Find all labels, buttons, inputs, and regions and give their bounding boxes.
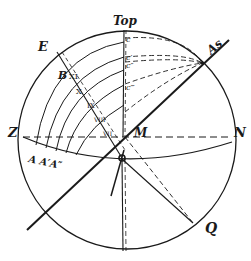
dashed-arc-5 [125, 63, 202, 112]
label-b: B [57, 69, 67, 82]
label-q: Q [205, 220, 217, 236]
label-c: c [126, 35, 131, 44]
hour-arc-5 [76, 105, 124, 155]
hour-mark-vii: VII [102, 130, 113, 137]
label-m: M [133, 126, 148, 140]
vertical-axis-lower-dashed [125, 159, 126, 251]
hour-mark-x: X [76, 87, 82, 96]
e-line-dashed [62, 52, 125, 150]
hour-mark-ix: IX [87, 102, 95, 110]
label-top: Top [113, 14, 138, 28]
dashed-arc-1 [125, 38, 202, 63]
hour-mark-viii: VIII [93, 116, 106, 123]
label-n: N [233, 125, 247, 140]
q-line [122, 159, 193, 223]
dashed-arc-3 [125, 60, 202, 63]
dashed-arc-2 [125, 55, 202, 63]
hour-arc-3 [56, 70, 124, 151]
hour-mark-xi: XI [69, 72, 78, 81]
label-a-group: A A′A″ [27, 153, 64, 171]
label-c3: c‴ [126, 83, 135, 92]
label-e: E [37, 39, 49, 54]
label-c2: c″ [126, 61, 133, 70]
label-as: As [203, 36, 225, 58]
as-point [200, 61, 203, 64]
vertical-axis-upper [123, 30, 124, 137]
q-dashed-line [125, 137, 193, 223]
vertical-axis-lower [122, 159, 123, 251]
sundial-sphere-diagram: Top E As Z N M Q B A A′A″ c c′ c″ c‴ XI … [0, 0, 251, 261]
dashed-arc-4 [125, 63, 202, 84]
label-z: Z [7, 125, 18, 140]
